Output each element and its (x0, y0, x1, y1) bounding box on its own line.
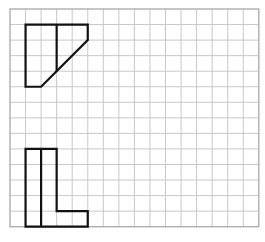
grid-diagram (0, 0, 265, 242)
background (0, 0, 265, 242)
